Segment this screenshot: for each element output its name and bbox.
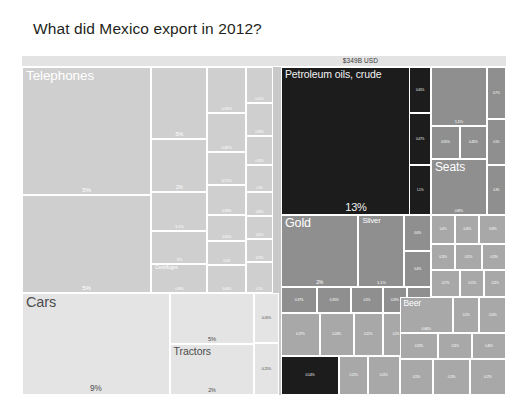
tile-percent: 0.45% <box>461 140 486 144</box>
treemap-tile-silver[interactable]: Silver1.1% <box>358 215 404 287</box>
tile-percent: 0.45% <box>473 344 505 348</box>
tile-label: Silver <box>362 217 380 225</box>
treemap-tile[interactable]: 0.3% <box>487 165 506 214</box>
tile-percent: 0.37% <box>282 298 316 302</box>
tile-percent: 0.11% <box>439 344 471 348</box>
tile-percent: 0.25% <box>255 367 277 371</box>
treemap-tile[interactable]: 0.4% <box>431 215 455 245</box>
tile-percent: 0.16% <box>456 227 478 231</box>
treemap-tile[interactable]: 1.1% <box>151 192 207 231</box>
treemap-tile[interactable]: 0.18% <box>479 215 506 245</box>
treemap-header-bar: $349B USD <box>22 56 506 67</box>
treemap-tile[interactable]: 0.2% <box>246 262 273 293</box>
treemap-tile[interactable]: 0.6% <box>404 215 431 251</box>
treemap-tile[interactable]: 5% <box>170 293 255 344</box>
treemap-tile[interactable]: 0.27% <box>281 313 320 356</box>
tile-percent: 0.4% <box>405 267 430 271</box>
treemap-tile[interactable]: 1% <box>151 231 207 264</box>
treemap-tile[interactable]: 0.3% <box>351 287 382 313</box>
tile-percent: 5% <box>152 131 206 137</box>
treemap-tile[interactable]: 0.2% <box>453 297 480 333</box>
tile-percent: 0.17% <box>471 375 505 379</box>
treemap-tile[interactable]: 0.44% <box>207 265 246 293</box>
treemap-tile[interactable]: 0.45% <box>460 126 487 159</box>
treemap-tile[interactable]: 0.05% <box>254 293 278 342</box>
tile-label: Centrifuges <box>155 266 177 271</box>
treemap-tile[interactable]: 0.55% <box>207 215 246 241</box>
treemap-tile[interactable]: 0.25% <box>254 343 278 395</box>
treemap-tile[interactable]: 0.15% <box>431 244 455 270</box>
tile-label: Tractors <box>174 346 211 357</box>
tile-percent: 0.25% <box>247 233 272 237</box>
tile-percent: 0.45% <box>410 88 430 92</box>
treemap-tile[interactable]: 0.41% <box>246 67 273 103</box>
treemap-tile[interactable]: 0.3% <box>246 165 273 191</box>
treemap-tile[interactable]: 0.82% <box>207 113 246 152</box>
treemap-tile[interactable]: 0.22% <box>354 313 383 356</box>
treemap-tile[interactable]: 0.7% <box>487 67 506 119</box>
treemap-tile[interactable]: 5% <box>22 195 151 293</box>
treemap-tile-centrifuges[interactable]: Centrifuges0.8% <box>151 264 207 294</box>
tile-percent: 0.27% <box>282 332 319 336</box>
treemap-tile[interactable]: 0.12% <box>339 356 368 395</box>
treemap-tile[interactable]: 0.11% <box>368 356 399 395</box>
treemap-tile[interactable]: 0.11% <box>438 333 472 359</box>
treemap-tiles: Telephones5%5%Cars9%Tractors2%5%5%2%1.1%… <box>22 67 506 395</box>
treemap-tile[interactable]: 0.55% <box>431 126 460 159</box>
treemap-tile[interactable]: 0.22% <box>246 239 273 262</box>
treemap-tile[interactable]: 0.17% <box>470 359 506 395</box>
page-title: What did Mexico export in 2012? <box>33 20 262 38</box>
treemap-tile[interactable]: 0.13% <box>482 244 506 270</box>
tile-percent: 0.55% <box>208 235 245 239</box>
tile-percent: 1.1% <box>152 224 206 229</box>
treemap-tile[interactable]: 0.35% <box>317 287 351 313</box>
treemap-tile[interactable]: 5% <box>151 67 207 139</box>
treemap-tile[interactable]: 2% <box>151 139 207 191</box>
tile-percent: 2% <box>171 387 254 393</box>
treemap-tile[interactable]: 0.14% <box>479 297 506 333</box>
treemap-tile[interactable]: 0.38% <box>246 103 273 136</box>
treemap-tile-tractors[interactable]: Tractors2% <box>170 344 255 395</box>
treemap-tile[interactable]: 0.63% <box>207 185 246 215</box>
treemap-tile-telephones[interactable]: Telephones5% <box>22 67 151 195</box>
tile-percent: 0.12% <box>461 281 483 285</box>
treemap-tile[interactable]: 0.4% <box>404 251 431 287</box>
tile-percent: 0.95% <box>208 106 245 111</box>
treemap-tile-seats[interactable]: Seats0.8% <box>431 159 487 215</box>
tile-percent: 0.22% <box>247 256 272 260</box>
treemap-tile[interactable]: 0.17% <box>431 270 460 296</box>
treemap-tile[interactable]: 0.37% <box>281 287 317 313</box>
treemap-tile[interactable]: 1.1% <box>431 67 487 126</box>
treemap-tile[interactable]: 0.72% <box>207 152 246 185</box>
treemap-tile[interactable]: 0.45% <box>472 333 506 359</box>
treemap-tile[interactable]: 0.24% <box>320 313 354 356</box>
treemap-tile[interactable]: 0.11% <box>400 359 434 395</box>
treemap-tile[interactable]: 0.32% <box>400 333 439 359</box>
treemap-tile[interactable]: 0.28% <box>246 192 273 217</box>
treemap-tile[interactable]: 0.47% <box>409 113 431 165</box>
treemap-tile-beer[interactable]: Beer0.66% <box>400 297 453 333</box>
tile-percent: 0.38% <box>247 130 272 134</box>
tile-percent: 1% <box>152 257 206 262</box>
treemap-tile[interactable]: 0.35% <box>246 136 273 166</box>
treemap-tile-cars[interactable]: Cars9% <box>22 293 170 395</box>
treemap-tile[interactable]: 0.12% <box>460 270 484 296</box>
treemap-tile[interactable]: 0.11% <box>484 270 506 296</box>
treemap-tile[interactable]: 0.16% <box>455 215 479 245</box>
tile-percent: 0.18% <box>480 227 505 231</box>
treemap-tile[interactable]: 0.21% <box>455 244 482 270</box>
treemap-tile[interactable]: 0.5% <box>207 241 246 266</box>
treemap-tile-gold[interactable]: Gold2% <box>281 215 358 287</box>
treemap-tile[interactable]: 1.1% <box>409 165 431 214</box>
tile-percent: 0.11% <box>369 373 398 377</box>
tile-percent: 0.2% <box>247 287 272 291</box>
treemap-tile[interactable]: 0.45% <box>409 67 431 113</box>
treemap-tile[interactable]: 0.5% <box>487 119 506 165</box>
tile-percent: 0.11% <box>401 375 433 379</box>
treemap-tile[interactable]: 0.25% <box>246 216 273 239</box>
treemap-tile[interactable]: 0.95% <box>207 67 246 113</box>
tile-percent: 0.8% <box>152 287 206 291</box>
treemap-tile[interactable]: 0.13% <box>433 359 469 395</box>
tile-percent: 0.4% <box>432 227 454 231</box>
treemap-tile[interactable]: 0.14% <box>281 356 339 395</box>
